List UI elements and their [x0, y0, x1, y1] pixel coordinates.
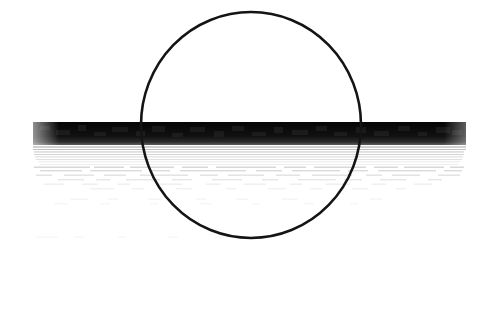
ghost-text-mark: [262, 179, 278, 180]
band-mottle-mark: [274, 127, 283, 133]
ghost-text-mark: [132, 188, 144, 189]
band-mottle-mark: [78, 125, 86, 131]
band-mottle-mark: [418, 132, 427, 136]
ghost-text-mark: [214, 237, 222, 238]
ghost-text-mark: [212, 179, 242, 180]
ghost-text-mark: [70, 199, 88, 200]
ghost-text-mark: [180, 170, 246, 171]
band-mottle-mark: [172, 133, 183, 137]
ghost-text-mark: [200, 203, 212, 204]
ghost-text-mark: [90, 170, 142, 171]
ghost-text-mark: [256, 170, 282, 171]
ghost-text-mark: [396, 188, 406, 189]
ghost-text-mark: [206, 184, 220, 185]
ghost-text-mark: [228, 175, 264, 176]
ghost-text-mark: [44, 184, 64, 185]
band-mottle-mark: [190, 127, 205, 132]
ghost-text-mark: [298, 179, 336, 180]
ghost-text-mark: [314, 167, 366, 168]
fading-scan-line: [33, 147, 466, 148]
ghost-text-mark: [140, 175, 188, 176]
ghost-text-mark: [380, 179, 406, 180]
ghost-text-mark: [150, 203, 158, 204]
ghost-text-mark: [438, 175, 460, 176]
ghost-text-mark: [40, 170, 82, 171]
band-right-fade: [444, 122, 466, 145]
ghost-text-mark: [108, 199, 118, 200]
ghost-text-mark: [156, 184, 182, 185]
ghost-text-mark: [284, 167, 306, 168]
ghost-text-mark: [96, 179, 110, 180]
ghost-text-mark: [292, 170, 340, 171]
ghost-text-mark: [444, 170, 462, 171]
ghost-text-mark: [414, 184, 432, 185]
ghost-text-mark: [428, 179, 442, 180]
ghost-text-mark: [172, 179, 192, 180]
band-left-fade: [33, 122, 59, 145]
ghost-text-mark: [216, 167, 276, 168]
ghost-text-mark: [244, 184, 266, 185]
ghost-text-mark: [310, 188, 322, 189]
ghost-text-mark: [90, 188, 114, 189]
ghost-text-mark: [36, 237, 58, 238]
ghost-text-mark: [366, 175, 382, 176]
ghost-text-mark: [36, 175, 52, 176]
ghost-text-mark: [350, 203, 358, 204]
scan-canvas: [0, 0, 488, 328]
ghost-text-mark: [196, 199, 206, 200]
band-mottle-mark: [316, 126, 327, 131]
band-mottle-mark: [334, 132, 347, 136]
fading-scan-line: [40, 164, 458, 165]
band-mottle-mark: [292, 130, 308, 135]
ghost-text-mark: [226, 188, 236, 189]
fading-scan-line: [35, 157, 463, 158]
ghost-text-mark: [372, 184, 386, 185]
ghost-text-mark: [236, 199, 248, 200]
ghost-text-mark: [104, 175, 126, 176]
ghost-text-mark: [118, 237, 126, 238]
band-mottle-mark: [374, 131, 389, 136]
ghost-text-mark: [64, 175, 94, 176]
ghost-text-mark: [74, 237, 84, 238]
ghost-text-mark: [252, 203, 260, 204]
ghost-text-mark: [352, 188, 368, 189]
ghost-text-mark: [200, 175, 218, 176]
ghost-text-mark: [94, 167, 124, 168]
fading-scan-line: [33, 149, 466, 150]
band-mottle-mark: [94, 132, 106, 136]
ghost-text-mark: [378, 170, 436, 171]
band-mottle-mark: [152, 126, 165, 132]
band-mottle-mark: [398, 126, 410, 131]
ghost-text-mark: [450, 167, 464, 168]
ghost-text-mark: [404, 167, 444, 168]
ghost-text-mark: [268, 188, 286, 189]
ghost-text-mark: [182, 167, 208, 168]
fading-scan-line: [38, 162, 460, 163]
ghost-text-mark: [370, 199, 382, 200]
fading-scan-line: [34, 152, 464, 153]
ghost-text-mark: [130, 167, 174, 168]
ghost-text-mark: [290, 184, 302, 185]
ghost-text-mark: [176, 188, 192, 189]
ghost-text-mark: [282, 199, 298, 200]
band-mottle-mark: [232, 126, 244, 131]
ghost-text-mark: [58, 179, 84, 180]
ghost-text-mark: [54, 203, 68, 204]
ghost-text-mark: [312, 175, 352, 176]
ghost-text-mark: [118, 184, 130, 185]
ghost-text-mark: [276, 175, 300, 176]
ghost-text-mark: [148, 199, 162, 200]
ghost-text-mark: [82, 184, 98, 185]
ghost-text-mark: [34, 167, 90, 168]
redaction-band-group: [33, 122, 466, 145]
band-mottle-mark: [252, 132, 266, 136]
ghost-text-mark: [304, 203, 314, 204]
ghost-text-mark: [168, 237, 178, 238]
fading-scan-line: [34, 154, 464, 155]
ghost-text-mark: [152, 170, 170, 171]
band-mottle-mark: [214, 131, 224, 137]
scan-artifact-svg: [0, 0, 488, 328]
ghost-text-mark: [392, 175, 420, 176]
fading-scan-line: [36, 159, 462, 160]
ghost-text-mark: [374, 167, 398, 168]
